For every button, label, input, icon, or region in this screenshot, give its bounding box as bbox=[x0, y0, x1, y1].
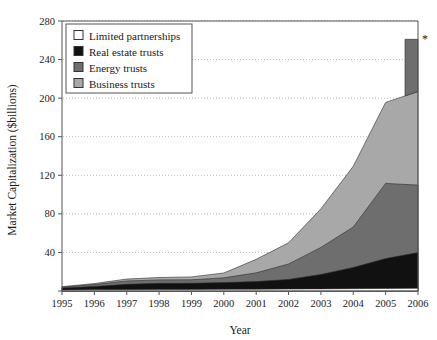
y-tick-label-120: 120 bbox=[39, 170, 55, 181]
x-tick-label-2002: 2002 bbox=[278, 298, 299, 309]
y-axis-title: Market Capitalization ($billions) bbox=[6, 84, 19, 236]
x-tick-label-2004: 2004 bbox=[343, 298, 365, 309]
annotations-layer: * bbox=[422, 32, 428, 46]
x-tick-label-1998: 1998 bbox=[149, 298, 170, 309]
x-tick-label-1996: 1996 bbox=[84, 298, 105, 309]
x-tick-label-2005: 2005 bbox=[375, 298, 396, 309]
legend-label-limited-partnerships: Limited partnerships bbox=[89, 30, 180, 42]
legend-swatch-energy-trusts bbox=[74, 63, 83, 72]
x-tick-label-2001: 2001 bbox=[246, 298, 267, 309]
asterisk-annotation: * bbox=[422, 32, 428, 46]
y-tick-label-200: 200 bbox=[39, 93, 55, 104]
legend-label-energy-trusts: Energy trusts bbox=[89, 62, 147, 74]
x-tick-label-1997: 1997 bbox=[116, 298, 137, 309]
y-tick-label-40: 40 bbox=[45, 247, 56, 258]
legend-label-business-trusts: Business trusts bbox=[89, 78, 155, 90]
x-tick-label-1999: 1999 bbox=[181, 298, 202, 309]
stacked-area-chart: 4080120160200240280199519961997199819992… bbox=[0, 0, 437, 340]
legend-swatch-limited-partnerships bbox=[74, 31, 83, 40]
x-axis-title: Year bbox=[229, 324, 250, 336]
y-tick-label-280: 280 bbox=[39, 16, 55, 27]
legend-swatch-business-trusts bbox=[74, 79, 83, 88]
y-tick-label-160: 160 bbox=[39, 131, 55, 142]
x-tick-label-2003: 2003 bbox=[310, 298, 331, 309]
x-tick-label-1995: 1995 bbox=[52, 298, 73, 309]
spike-2006 bbox=[405, 39, 418, 96]
chart-figure: 4080120160200240280199519961997199819992… bbox=[0, 0, 437, 340]
y-tick-label-240: 240 bbox=[39, 54, 55, 65]
x-tick-label-2000: 2000 bbox=[213, 298, 234, 309]
legend-swatch-real-estate-trusts bbox=[74, 47, 83, 56]
legend-label-real-estate-trusts: Real estate trusts bbox=[89, 46, 164, 58]
x-tick-label-2006: 2006 bbox=[408, 298, 429, 309]
y-tick-label-80: 80 bbox=[45, 208, 56, 219]
chart-legend: Limited partnershipsReal estate trustsEn… bbox=[66, 24, 192, 93]
